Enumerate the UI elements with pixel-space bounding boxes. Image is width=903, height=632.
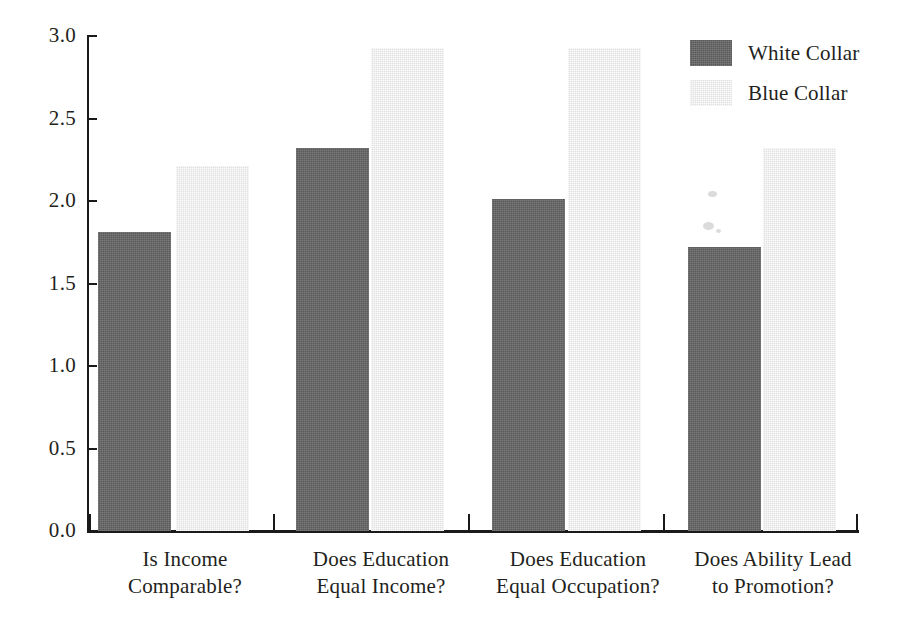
bar-blue-collar-1 <box>176 166 249 531</box>
legend-swatch-icon <box>690 40 732 66</box>
bar-blue-collar-3 <box>568 48 641 531</box>
bar-white-collar-4 <box>688 247 761 531</box>
x-axis-category-label-4: Does Ability Leadto Promotion? <box>653 546 893 600</box>
bar-white-collar-1 <box>98 232 171 531</box>
bar-blue-collar-4 <box>763 148 836 531</box>
category-label-line: Does Ability Lead <box>653 546 893 573</box>
bar-white-collar-3 <box>492 199 565 531</box>
legend-swatch-icon <box>690 80 732 106</box>
y-axis-tick-label: 0.0 <box>16 520 76 541</box>
y-axis-tick-label: 1.0 <box>16 355 76 376</box>
y-axis-tick-label: 2.5 <box>16 108 76 129</box>
legend-label: Blue Collar <box>748 83 848 104</box>
legend-item-2: Blue Collar <box>690 80 859 106</box>
chart-legend: White CollarBlue Collar <box>690 40 859 120</box>
bar-chart: 0.00.51.01.52.02.53.0 Is IncomeComparabl… <box>0 0 903 632</box>
legend-label: White Collar <box>748 43 859 64</box>
scan-speckle <box>708 191 717 197</box>
legend-item-1: White Collar <box>690 40 859 66</box>
bar-blue-collar-2 <box>371 48 444 531</box>
category-label-line: to Promotion? <box>653 573 893 600</box>
scan-speckle <box>716 229 721 233</box>
y-axis-tick-label: 2.0 <box>16 190 76 211</box>
scan-speckle <box>703 222 714 230</box>
y-axis-tick-label: 3.0 <box>16 25 76 46</box>
bar-white-collar-2 <box>296 148 369 531</box>
y-axis-tick-label: 1.5 <box>16 273 76 294</box>
y-axis-tick-label: 0.5 <box>16 438 76 459</box>
